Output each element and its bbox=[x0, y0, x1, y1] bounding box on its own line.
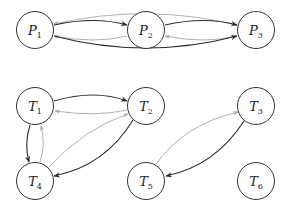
node-p3: P3 bbox=[238, 12, 275, 49]
edge-p3-p2-light bbox=[165, 36, 237, 40]
edge-t2-t4-dark bbox=[54, 120, 133, 176]
node-p2: P2 bbox=[128, 12, 165, 49]
node-t6: T6 bbox=[238, 163, 275, 200]
edge-t5-t3-light bbox=[156, 112, 238, 164]
node-t4: T4 bbox=[17, 163, 54, 200]
node-t1: T1 bbox=[17, 88, 54, 125]
node-t3: T3 bbox=[238, 88, 275, 125]
edge-t4-t2-light bbox=[49, 114, 128, 167]
edge-t2-t1-light bbox=[55, 110, 127, 114]
node-p1: P1 bbox=[17, 12, 54, 49]
node-t5: T5 bbox=[128, 163, 165, 200]
edge-p1-p2-dark bbox=[54, 21, 127, 26]
edge-t1-t4-dark bbox=[27, 125, 30, 162]
edge-t3-t5-dark bbox=[166, 121, 244, 176]
edge-t4-t1-light bbox=[40, 126, 43, 162]
edge-p2-p3-dark bbox=[165, 21, 237, 26]
node-t2: T2 bbox=[128, 88, 165, 125]
edge-t1-t2-dark bbox=[54, 95, 127, 101]
edge-p2-p1-light bbox=[54, 36, 127, 40]
graph-diagram: P1 P2 P3 T1 T2 T3 T4 T5 T6 bbox=[0, 0, 292, 213]
